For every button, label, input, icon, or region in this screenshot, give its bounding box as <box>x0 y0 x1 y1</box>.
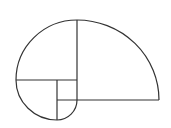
arc-left <box>16 20 77 80</box>
spiral-svg <box>0 0 171 128</box>
arc-small <box>57 100 77 120</box>
arc-bottom-left <box>16 80 57 120</box>
golden-spiral-diagram <box>0 0 171 128</box>
spiral-arcs <box>16 20 159 120</box>
arc-large <box>77 20 159 100</box>
